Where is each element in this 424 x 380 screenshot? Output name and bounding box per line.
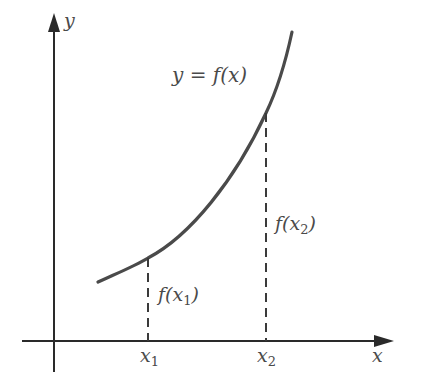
x2-tick-sub: 2: [268, 354, 276, 369]
x1-tick-label: x1: [140, 346, 159, 368]
f-x2-label: f(x2): [275, 214, 316, 236]
curve-label: y = f(x): [172, 65, 247, 85]
f-x1-pre: f(x: [158, 283, 183, 305]
f-x1-post: ): [191, 283, 198, 305]
x2-tick-label: x2: [257, 346, 276, 368]
graph-canvas: [0, 0, 424, 380]
x1-tick-base: x: [140, 344, 151, 366]
f-x2-post: ): [308, 212, 315, 234]
f-x1-label: f(x1): [158, 285, 199, 307]
x-axis-label: x: [372, 346, 383, 365]
y-axis-label: y: [64, 11, 75, 30]
x1-tick-sub: 1: [151, 354, 159, 369]
y-axis-arrow-icon: [48, 13, 60, 32]
x2-tick-base: x: [257, 344, 268, 366]
f-x2-pre: f(x: [275, 212, 300, 234]
